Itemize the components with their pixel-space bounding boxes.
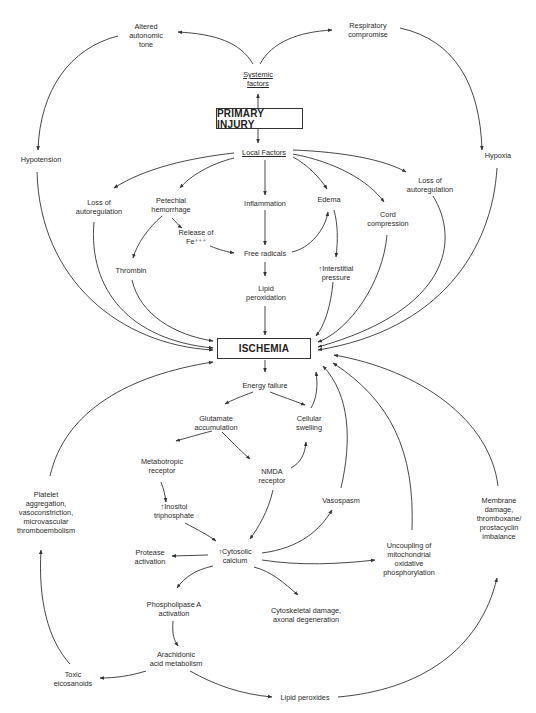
node-lipid-peroxides: Lipid peroxides — [280, 693, 329, 702]
edge-freeradicals-to-edema — [292, 212, 328, 252]
edge-arachidonic-to-lipidperoxides — [190, 671, 272, 697]
node-loss-autoregulation-right: Loss of autoregulation — [407, 176, 453, 194]
line: thromboembolism — [17, 526, 75, 535]
line: Lipid peroxides — [280, 693, 329, 702]
line: Cytoskeletal damage, — [271, 606, 341, 615]
node-arachidonic-acid: Arachidonic acid metabolism — [150, 650, 203, 668]
edge-edema-to-interstitial — [334, 210, 337, 257]
line: aggregation, — [17, 499, 75, 508]
node-edema: Edema — [317, 195, 340, 204]
line: Thrombin — [116, 266, 147, 275]
edge-inositol-to-calcium — [185, 523, 216, 541]
line: mitochondrial — [383, 550, 435, 559]
line: autoregulation — [76, 207, 122, 216]
line: swelling — [296, 423, 322, 432]
line: Platelet — [17, 490, 75, 499]
line: eicosanoids — [54, 679, 93, 688]
line: autoregulation — [407, 185, 453, 194]
node-hypoxia: Hypoxia — [485, 151, 511, 160]
line: activation — [147, 609, 201, 618]
node-phospholipase-a: Phospholipase A activation — [147, 600, 201, 618]
line: Glutamate — [195, 414, 238, 423]
line: vasoconstriction, — [17, 508, 75, 517]
line: activation — [135, 557, 166, 566]
line: accumulation — [195, 423, 238, 432]
edge-calcium-to-protease — [172, 555, 208, 556]
edge-calcium-to-cytoskeletal — [254, 567, 298, 595]
node-uncoupling: Uncoupling of mitochondrial oxidative ph… — [383, 541, 435, 577]
line: acid metabolism — [150, 659, 203, 668]
line: Inflammation — [244, 199, 286, 208]
line: Arachidonic — [150, 650, 203, 659]
line: Edema — [317, 195, 340, 204]
line: prostacyclin — [477, 523, 522, 532]
node-platelet-aggregation: Platelet aggregation, vasoconstriction, … — [17, 490, 75, 535]
node-hypotension: Hypotension — [21, 155, 62, 164]
line: compromise — [348, 30, 388, 39]
edge-thrombin-to-ischemia — [132, 280, 213, 341]
line: hemorrhage — [151, 205, 190, 214]
line: triphosphate — [154, 511, 194, 520]
edge-lipidperoxides-to-membrane — [338, 578, 497, 697]
node-lipid-peroxidation: Lipid peroxidation — [246, 284, 286, 302]
node-systemic-factors: Systemic factors — [243, 70, 273, 88]
line: Fe⁺⁺⁺ — [179, 237, 214, 246]
edge-systemic-to-autonomic — [178, 32, 253, 64]
line: Cord — [367, 210, 408, 219]
line: Protease — [135, 548, 166, 557]
node-local-factors: Local Factors — [242, 148, 286, 157]
edge-cord-to-ischemia — [318, 235, 387, 342]
line: Petechial — [151, 196, 190, 205]
edge-metabotropic-to-inositol — [161, 482, 166, 502]
line: Loss of — [76, 198, 122, 207]
node-altered-autonomic-tone: Altered autonomic tone — [129, 22, 163, 49]
edge-fe-to-freeradicals — [210, 246, 234, 253]
line: Free radicals — [244, 249, 286, 258]
edge-phospholipase-to-arachidonic — [173, 621, 178, 646]
node-thrombin: Thrombin — [116, 266, 147, 275]
line: receptor — [259, 476, 286, 485]
edge-energy-to-glutamate — [225, 392, 253, 404]
line: thromboxane/ — [477, 514, 522, 523]
edge-membrane-to-ischemia — [334, 355, 498, 486]
edge-arachidonic-to-toxic — [100, 671, 146, 678]
node-metabotropic-receptor: Metabotropic receptor — [141, 457, 183, 475]
edge-petechial-to-thrombin — [133, 216, 162, 258]
node-cytoskeletal-damage: Cytoskeletal damage, axonal degeneration — [271, 606, 341, 624]
line: Metabotropic — [141, 457, 183, 466]
node-membrane-damage: Membrane damage, thromboxane/ prostacycl… — [477, 496, 522, 541]
line: Uncoupling of — [383, 541, 435, 550]
edge-energy-to-swelling — [270, 392, 305, 405]
line: damage, — [477, 505, 522, 514]
line: Altered — [129, 22, 163, 31]
node-loss-autoregulation-left: Loss of autoregulation — [76, 198, 122, 216]
line: phosphorylation — [383, 568, 435, 577]
edge-calcium-to-phospholipase — [177, 566, 213, 588]
node-vasospasm: Vasospasm — [322, 496, 360, 505]
line: Release of — [179, 228, 214, 237]
line: calcium — [218, 556, 251, 565]
line: NMDA — [259, 467, 286, 476]
line: Local Factors — [242, 148, 286, 157]
edge-vasospasm-to-ischemia — [323, 366, 347, 488]
node-glutamate-accumulation: Glutamate accumulation — [195, 414, 238, 432]
edge-nmda-to-calcium — [250, 490, 273, 539]
line: axonal degeneration — [271, 615, 341, 624]
line: pressure — [319, 273, 354, 282]
node-release-of-fe: Release of Fe⁺⁺⁺ — [179, 228, 214, 246]
edge-respiratory-to-hypoxia — [400, 28, 482, 150]
line: Membrane — [477, 496, 522, 505]
node-free-radicals: Free radicals — [244, 249, 286, 258]
line: Energy failure — [242, 381, 287, 390]
line: imbalance — [477, 532, 522, 541]
node-energy-failure: Energy failure — [242, 381, 287, 390]
edge-local-to-lossleft — [114, 153, 234, 188]
line: Loss of — [407, 176, 453, 185]
edge-petechial-to-fe — [172, 218, 182, 228]
ischemia-label: ISCHEMIA — [239, 343, 290, 354]
edge-local-to-petechial — [180, 158, 234, 188]
node-cord-compression: Cord compression — [367, 210, 408, 228]
line: oxidative — [383, 559, 435, 568]
line: ↑Interstitial — [319, 264, 354, 273]
node-respiratory-compromise: Respiratory compromise — [348, 21, 388, 39]
